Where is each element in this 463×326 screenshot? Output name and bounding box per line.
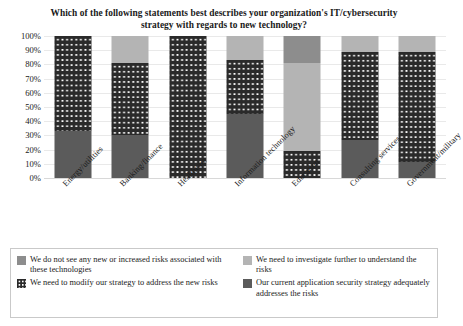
y-axis: 100%90%80%70%60%50%40%30%20%10%0% — [0, 36, 44, 178]
legend-label: Our current application security strateg… — [256, 278, 433, 298]
bar-segment-invest[interactable] — [112, 36, 149, 63]
y-axis-tick-label: 40% — [25, 117, 41, 126]
legend-swatch-nonew — [17, 256, 26, 265]
y-axis-tick-label: 100% — [21, 32, 41, 41]
y-axis-tick-label: 90% — [25, 46, 41, 55]
legend-item-invest[interactable]: We need to investigate further to unders… — [243, 255, 433, 275]
legend-item-modify[interactable]: We need to modify our strategy to addres… — [17, 278, 243, 298]
page-title: Which of the following statements best d… — [0, 0, 448, 31]
x-axis-label-slot: Healthcare — [159, 182, 216, 244]
y-axis-tick-label: 20% — [25, 145, 41, 154]
legend-label: We do not see any new or increased risks… — [30, 255, 235, 275]
y-axis-tick-label: 50% — [25, 103, 41, 112]
bar-segment-modify[interactable] — [399, 52, 436, 163]
y-axis-tick-label: 60% — [25, 89, 41, 98]
bar-slot — [274, 36, 331, 178]
bar-segment-modify[interactable] — [226, 60, 263, 114]
x-axis-label-slot: Government/military — [389, 182, 446, 244]
legend-swatch-invest — [243, 256, 252, 265]
stacked-bar[interactable] — [284, 36, 321, 178]
legend-item-current[interactable]: Our current application security strateg… — [243, 278, 433, 298]
x-axis-label-slot: Information technology — [216, 182, 273, 244]
legend-swatch-modify — [17, 279, 26, 288]
y-axis-tick-label: 80% — [25, 60, 41, 69]
bar-segment-modify[interactable] — [54, 36, 91, 131]
legend-swatch-current — [243, 279, 252, 288]
bar-segment-nonew[interactable] — [284, 36, 321, 63]
y-axis-tick-label: 0% — [30, 174, 41, 183]
bar-segment-invest[interactable] — [341, 36, 378, 52]
bar-segment-modify[interactable] — [112, 63, 149, 135]
y-axis-tick-label: 10% — [25, 160, 41, 169]
x-axis-label-slot: Banking/finance — [101, 182, 158, 244]
x-axis-label-slot: Consulting services — [331, 182, 388, 244]
legend-item-nonew[interactable]: We do not see any new or increased risks… — [17, 255, 243, 275]
bar-segment-modify[interactable] — [341, 52, 378, 140]
x-axis-label-slot: Energy/utilities — [44, 182, 101, 244]
bar-segment-invest[interactable] — [399, 36, 436, 52]
x-axis-label-slot: Education — [274, 182, 331, 244]
x-axis-labels: Energy/utilitiesBanking/financeHealthcar… — [44, 182, 446, 244]
bar-slot — [159, 36, 216, 178]
bar-segment-invest[interactable] — [226, 36, 263, 60]
legend-label: We need to modify our strategy to addres… — [30, 278, 218, 288]
legend-label: We need to investigate further to unders… — [256, 255, 433, 275]
chart-legend: We do not see any new or increased risks… — [10, 248, 438, 318]
y-axis-tick-label: 70% — [25, 74, 41, 83]
y-axis-tick-label: 30% — [25, 131, 41, 140]
